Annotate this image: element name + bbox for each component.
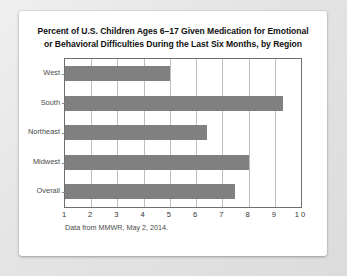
bar-row: Northeast: [65, 118, 301, 148]
category-label-overall: Overall: [37, 186, 60, 195]
chart-card: Percent of U.S. Children Ages 6–17 Given…: [19, 11, 327, 256]
plot-frame: WestSouthNortheastMidwestOverall: [64, 58, 302, 208]
category-label-south: South: [41, 98, 60, 107]
x-tick-label: 4: [141, 210, 145, 219]
category-label-west: West: [43, 68, 60, 77]
category-label-northeast: Northeast: [28, 127, 60, 136]
bar-south[interactable]: [65, 96, 283, 111]
bar-west[interactable]: [65, 66, 170, 81]
x-tick-label: 7: [219, 210, 223, 219]
chart-title-line-1: Percent of U.S. Children Ages 6–17 Given…: [33, 25, 313, 38]
bar-row: West: [65, 59, 301, 89]
bar-midwest[interactable]: [65, 155, 249, 170]
x-tick-label: 9: [272, 210, 276, 219]
x-tick-label: 6: [193, 210, 197, 219]
bar-row: Midwest: [65, 148, 301, 178]
x-tick-label: 5: [167, 210, 171, 219]
bar-row: South: [65, 89, 301, 119]
x-tick-label: 3: [114, 210, 118, 219]
category-label-midwest: Midwest: [33, 157, 60, 166]
bar-northeast[interactable]: [65, 125, 207, 140]
x-tick-label: 2: [88, 210, 92, 219]
source-note: Data from MMWR, May 2, 2014.: [65, 223, 168, 232]
plot-area: WestSouthNortheastMidwestOverall 1234567…: [19, 58, 327, 218]
chart-title: Percent of U.S. Children Ages 6–17 Given…: [33, 25, 313, 50]
chart-title-line-2: or Behavioral Difficulties During the La…: [33, 38, 313, 51]
x-tick-label: 1 0: [295, 210, 306, 219]
x-tick-label: 1: [62, 210, 66, 219]
x-tick-label: 8: [245, 210, 249, 219]
bar-row: Overall: [65, 177, 301, 207]
bar-overall[interactable]: [65, 184, 235, 199]
